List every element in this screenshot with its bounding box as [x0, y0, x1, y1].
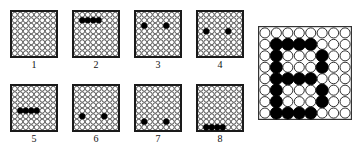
dot-empty: [113, 51, 118, 56]
dot-empty: [136, 86, 141, 91]
result-grid-letter: [258, 26, 352, 120]
dot-empty: [23, 40, 28, 45]
dot-empty: [231, 34, 236, 39]
dot-empty: [175, 34, 180, 39]
frame-1: 1: [10, 10, 58, 71]
dot-empty: [220, 51, 225, 56]
dot-empty: [12, 92, 17, 97]
dot-empty: [45, 34, 50, 39]
dot-empty: [215, 108, 220, 113]
dot-empty: [294, 97, 304, 107]
dot-empty: [142, 108, 147, 113]
dot-empty: [136, 125, 141, 130]
dot-empty: [91, 97, 96, 102]
dot-empty: [226, 40, 231, 45]
dot-empty: [51, 40, 56, 45]
dot-empty: [40, 51, 45, 56]
dot-empty: [220, 34, 225, 39]
dot-empty: [74, 119, 79, 124]
dot-empty: [29, 18, 34, 23]
dot-empty: [107, 119, 112, 124]
dot-empty: [96, 40, 101, 45]
dot-matrix-figure: 12345678: [0, 0, 355, 151]
dot-empty: [91, 34, 96, 39]
dot-empty: [226, 18, 231, 23]
dot-empty: [12, 114, 17, 119]
dot-empty: [23, 18, 28, 23]
dot-empty: [220, 108, 225, 113]
dot-empty: [142, 45, 147, 50]
dot-empty: [12, 125, 17, 130]
frame-label-4: 4: [196, 59, 244, 71]
dot-filled: [28, 108, 34, 114]
dot-empty: [102, 23, 107, 28]
dot-empty: [96, 86, 101, 91]
dot-empty: [340, 74, 350, 84]
dot-empty: [29, 92, 34, 97]
dot-empty: [96, 12, 101, 17]
dot-empty: [107, 114, 112, 119]
dot-empty: [317, 28, 327, 38]
dot-empty: [164, 40, 169, 45]
dot-empty: [158, 45, 163, 50]
dot-empty: [231, 40, 236, 45]
dot-empty: [18, 103, 23, 108]
dot-empty: [34, 23, 39, 28]
dot-empty: [12, 119, 17, 124]
dot-empty: [169, 18, 174, 23]
dot-filled: [282, 107, 294, 119]
dot-empty: [91, 12, 96, 17]
dot-empty: [147, 34, 152, 39]
dot-filled: [270, 107, 282, 119]
dot-empty: [158, 114, 163, 119]
dot-empty: [220, 12, 225, 17]
dot-empty: [34, 114, 39, 119]
dot-empty: [226, 86, 231, 91]
dot-empty: [153, 86, 158, 91]
dot-empty: [147, 92, 152, 97]
dot-empty: [198, 34, 203, 39]
dot-empty: [260, 28, 270, 38]
dot-empty: [169, 23, 174, 28]
dot-empty: [45, 23, 50, 28]
dot-empty: [29, 34, 34, 39]
dot-empty: [142, 97, 147, 102]
dot-empty: [175, 18, 180, 23]
dot-empty: [164, 45, 169, 50]
dot-empty: [204, 51, 209, 56]
dot-empty: [91, 119, 96, 124]
dot-empty: [142, 18, 147, 23]
dot-empty: [34, 45, 39, 50]
dot-empty: [51, 119, 56, 124]
dot-empty: [29, 103, 34, 108]
dot-empty: [113, 119, 118, 124]
dot-empty: [80, 86, 85, 91]
dot-empty: [153, 125, 158, 130]
dot-empty: [29, 114, 34, 119]
dot-filled: [101, 113, 107, 119]
dot-empty: [80, 103, 85, 108]
dot-empty: [226, 23, 231, 28]
dot-empty: [169, 92, 174, 97]
dot-empty: [153, 40, 158, 45]
dot-empty: [91, 125, 96, 130]
dot-filled: [282, 38, 294, 50]
dot-empty: [215, 45, 220, 50]
dot-empty: [198, 92, 203, 97]
dot-empty: [51, 103, 56, 108]
dot-empty: [18, 86, 23, 91]
dot-filled: [79, 17, 85, 23]
dot-grid-result: [258, 26, 352, 120]
dot-empty: [317, 108, 327, 118]
dot-empty: [113, 29, 118, 34]
dot-empty: [147, 18, 152, 23]
dot-filled: [79, 113, 85, 119]
dot-empty: [51, 97, 56, 102]
dot-empty: [85, 40, 90, 45]
dot-empty: [18, 23, 23, 28]
dot-empty: [153, 18, 158, 23]
dot-empty: [147, 125, 152, 130]
dot-empty: [164, 86, 169, 91]
dot-empty: [204, 114, 209, 119]
dot-empty: [12, 29, 17, 34]
